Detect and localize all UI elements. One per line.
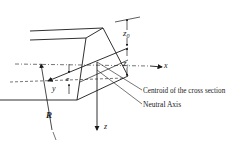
centroid-label: Centroid of the cross section [143,87,226,95]
radius-tail [53,132,56,140]
radius-label: R [45,110,52,120]
beam-outline [0,28,128,100]
z-axis-label: z [103,122,108,131]
section-line [80,60,128,82]
zi-label: zi [122,58,129,69]
z0-label: z0 [122,28,130,39]
eccentricity-label: e [66,75,69,83]
x-axis-label: x [163,61,168,70]
curved-beam-diagram: z0 zi x y z R e Centroid of the cross se… [0,0,247,148]
centroid-leader [97,62,142,90]
radius-arrow [41,64,52,130]
neutral-axis-label: Neutral Axis [143,100,181,109]
y-axis-label: y [51,84,56,93]
